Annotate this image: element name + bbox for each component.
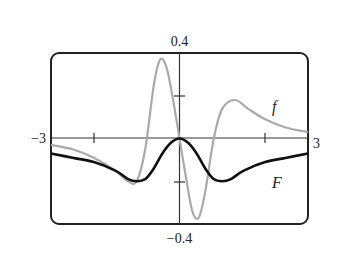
series-f-label: f (272, 98, 279, 116)
y-max-label: 0.4 (171, 34, 189, 49)
x-max-label: 3 (313, 136, 320, 151)
y-min-label: −0.4 (167, 231, 192, 246)
series-F-label: F (271, 174, 282, 191)
x-min-label: −3 (31, 131, 46, 146)
chart: 0.4 −0.4 −3 3 f F (0, 0, 339, 263)
